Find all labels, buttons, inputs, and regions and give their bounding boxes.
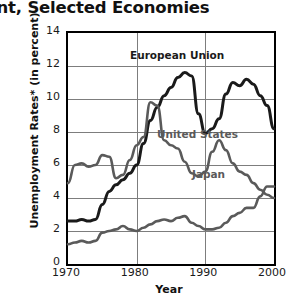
series-label-united-states: United States bbox=[157, 128, 238, 140]
y-tick-label: 10 bbox=[38, 90, 60, 103]
series-lines bbox=[68, 33, 274, 264]
x-axis-title: Year bbox=[66, 283, 272, 296]
y-tick-label: 8 bbox=[38, 123, 60, 136]
y-tick-label: 12 bbox=[38, 57, 60, 70]
x-tick-label: 1980 bbox=[115, 266, 155, 279]
line-european-union bbox=[68, 73, 274, 222]
page-title: yment, Selected Economies bbox=[0, 0, 291, 17]
y-tick-label: 2 bbox=[38, 222, 60, 235]
x-tick-label: 1990 bbox=[183, 266, 223, 279]
x-tick-label: 2000 bbox=[252, 266, 291, 279]
y-tick-label: 4 bbox=[38, 189, 60, 202]
line-united-states bbox=[68, 102, 274, 198]
series-label-japan: Japan bbox=[192, 168, 225, 180]
plot-area: European Union United States Japan bbox=[66, 31, 276, 266]
y-tick-label: 6 bbox=[38, 156, 60, 169]
series-label-european-union: European Union bbox=[130, 49, 224, 61]
x-tick-label: 1970 bbox=[46, 266, 86, 279]
y-tick-label: 14 bbox=[38, 24, 60, 37]
